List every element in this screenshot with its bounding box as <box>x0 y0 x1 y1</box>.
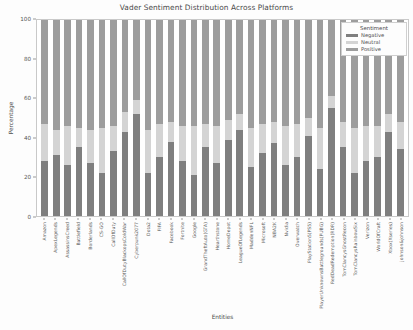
x-tick-label: Cyberpunk2077 <box>134 222 139 259</box>
stacked-bar[interactable] <box>168 20 175 216</box>
x-tick: GrandTheftAuto(GTA) <box>199 218 211 313</box>
x-tick: AssassinsCreed <box>61 218 73 313</box>
stacked-bar[interactable] <box>191 20 198 216</box>
bar-segment-neu <box>168 122 175 142</box>
y-tick-label: 0 <box>27 214 31 220</box>
bar-segment-neu <box>351 128 358 173</box>
bar-segment-neg <box>110 151 117 216</box>
y-tick-label: 20 <box>24 174 31 180</box>
bar-column <box>85 20 96 216</box>
bar-segment-pos <box>156 20 163 124</box>
x-tick-label: Overwatch <box>295 222 300 247</box>
x-tick-label: PlayStation5(PS5) <box>306 222 311 263</box>
bar-segment-neu <box>76 128 83 148</box>
bar-segment-neu <box>133 100 140 114</box>
x-tick-mark <box>332 218 333 220</box>
stacked-bar[interactable] <box>156 20 163 216</box>
x-tick-mark <box>378 218 379 220</box>
stacked-bar[interactable] <box>282 20 289 216</box>
stacked-bar[interactable] <box>271 20 278 216</box>
stacked-bar[interactable] <box>110 20 117 216</box>
bar-column <box>177 20 188 216</box>
stacked-bar[interactable] <box>64 20 71 216</box>
bar-segment-neg <box>41 161 48 216</box>
bar-segment-neg <box>271 143 278 216</box>
x-tick: CallOfDuty <box>107 218 119 313</box>
x-tick-label: Nvidia <box>283 222 288 236</box>
bar-segment-neu <box>282 126 289 165</box>
legend-item-negative[interactable]: Negative <box>346 32 402 38</box>
bar-segment-pos <box>87 20 94 130</box>
bar-column <box>245 20 256 216</box>
stacked-bar[interactable] <box>76 20 83 216</box>
bar-segment-neu <box>363 126 370 161</box>
legend-item-neutral[interactable]: Neutral <box>346 39 402 45</box>
y-tick-label: 80 <box>24 56 31 62</box>
x-tick-mark <box>251 218 252 220</box>
bar-column <box>50 20 61 216</box>
bar-segment-neu <box>110 126 117 151</box>
bar-segment-neg <box>351 173 358 216</box>
bar-segment-neu <box>294 124 301 157</box>
stacked-bar[interactable] <box>179 20 186 216</box>
x-tick-label: Borderlands <box>87 222 92 250</box>
bar-segment-pos <box>122 20 129 112</box>
x-tick: PlayerUnknownsBattlegrounds(PUBG) <box>315 218 327 313</box>
x-tick-label: Battlefield <box>76 222 81 246</box>
y-axis: Percentage 020406080100 <box>0 19 36 217</box>
x-tick-mark <box>308 218 309 220</box>
bar-column <box>165 20 176 216</box>
bar-column <box>257 20 268 216</box>
x-tick: Google <box>188 218 200 313</box>
stacked-bar[interactable] <box>213 20 220 216</box>
stacked-bar[interactable] <box>248 20 255 216</box>
bar-segment-neg <box>397 149 404 216</box>
stacked-bar[interactable] <box>122 20 129 216</box>
bar-segment-pos <box>248 20 255 128</box>
legend-item-positive[interactable]: Positive <box>346 46 402 52</box>
bar-column <box>326 20 337 216</box>
bar-segment-neu <box>259 124 266 153</box>
stacked-bar[interactable] <box>133 20 140 216</box>
stacked-bar[interactable] <box>145 20 152 216</box>
x-tick-mark <box>101 218 102 220</box>
bar-segment-neg <box>328 108 335 216</box>
stacked-bar[interactable] <box>259 20 266 216</box>
bar-segment-neg <box>53 155 60 216</box>
y-axis-label: Percentage <box>8 83 14 153</box>
bar-segment-pos <box>317 20 324 128</box>
stacked-bar[interactable] <box>87 20 94 216</box>
stacked-bar[interactable] <box>202 20 209 216</box>
x-tick: NBA2K <box>269 218 281 313</box>
bar-segment-neu <box>317 128 324 169</box>
legend-label-negative: Negative <box>361 32 384 38</box>
x-tick-mark <box>297 218 298 220</box>
x-tick-mark <box>389 218 390 220</box>
bar-column <box>154 20 165 216</box>
x-tick: PlayStation5(PS5) <box>303 218 315 313</box>
x-tick-label: Google <box>191 222 196 238</box>
stacked-bar[interactable] <box>53 20 60 216</box>
stacked-bar[interactable] <box>225 20 232 216</box>
bar-segment-neu <box>385 114 392 132</box>
stacked-bar[interactable] <box>294 20 301 216</box>
bar-segment-neg <box>374 157 381 216</box>
stacked-bar[interactable] <box>99 20 106 216</box>
stacked-bar[interactable] <box>317 20 324 216</box>
stacked-bar[interactable] <box>328 20 335 216</box>
bar-column <box>234 20 245 216</box>
bar-segment-pos <box>236 20 243 114</box>
x-tick: RedDeadRedemption(RDR) <box>326 218 338 313</box>
x-tick: Battlefield <box>73 218 85 313</box>
stacked-bar[interactable] <box>236 20 243 216</box>
stacked-bar[interactable] <box>41 20 48 216</box>
x-tick-mark <box>285 218 286 220</box>
x-tick-label: NBA2K <box>272 222 277 238</box>
x-tick: ApexLegends <box>50 218 62 313</box>
x-tick-mark <box>78 218 79 220</box>
stacked-bar[interactable] <box>305 20 312 216</box>
x-tick: Xbox(Xseries) <box>384 218 396 313</box>
bar-segment-neu <box>191 126 198 175</box>
legend-title: Sentiment <box>346 25 402 31</box>
x-tick: CallOfDutyBlackopsColdWar <box>119 218 131 313</box>
